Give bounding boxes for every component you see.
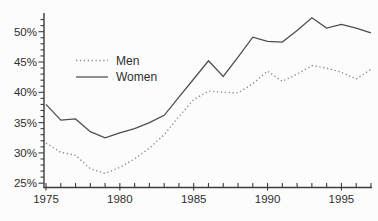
chart-canvas: 25%30%35%40%45%50%19751980198519901995Me… bbox=[0, 0, 378, 221]
x-axis-tick-label: 1995 bbox=[329, 193, 355, 205]
x-axis-tick-label: 1990 bbox=[255, 193, 281, 205]
y-axis-tick-label: 50% bbox=[14, 26, 37, 38]
x-axis-tick-label: 1975 bbox=[33, 193, 59, 205]
legend-men-label: Men bbox=[116, 54, 139, 68]
line-chart: 25%30%35%40%45%50%19751980198519901995Me… bbox=[0, 0, 378, 221]
y-axis-tick-label: 45% bbox=[14, 56, 37, 68]
y-axis-tick-label: 25% bbox=[14, 177, 37, 189]
y-axis-tick-label: 40% bbox=[14, 86, 37, 98]
women-series-line bbox=[46, 18, 371, 138]
y-axis-tick-label: 30% bbox=[14, 147, 37, 159]
men-series-line bbox=[46, 66, 371, 174]
x-axis-tick-label: 1980 bbox=[107, 193, 133, 205]
x-axis-tick-label: 1985 bbox=[181, 193, 207, 205]
legend-women-label: Women bbox=[116, 70, 157, 84]
y-axis-tick-label: 35% bbox=[14, 117, 37, 129]
